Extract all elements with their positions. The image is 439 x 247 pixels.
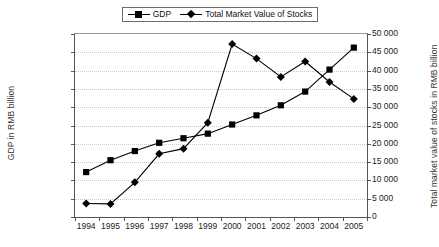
y-axis-left-title: GDP in RMB billion	[6, 63, 16, 183]
data-point-square	[326, 67, 332, 73]
x-axis-tick	[294, 217, 295, 221]
y-axis-right-tick	[367, 144, 371, 145]
y-axis-right-tick	[367, 71, 371, 72]
y-axis-right-tick	[367, 34, 371, 35]
y-axis-right-tick	[367, 126, 371, 127]
y-axis-right-tick-label: 50 000	[372, 29, 422, 38]
data-point-diamond	[253, 55, 261, 63]
data-point-square	[351, 45, 357, 51]
series-line-1	[86, 48, 354, 172]
y-axis-right-tick-label: 35 000	[372, 84, 422, 93]
y-axis-right-tick-label: 0	[372, 212, 422, 221]
legend-label-stocks: Total Market Value of Stocks	[204, 10, 312, 19]
data-point-square	[278, 102, 284, 108]
data-point-square	[156, 140, 162, 146]
data-point-square	[205, 131, 211, 137]
data-point-diamond	[350, 95, 358, 103]
data-point-square	[229, 121, 235, 127]
x-axis-tick	[75, 217, 76, 221]
x-axis-tick	[221, 217, 222, 221]
x-axis-tick	[148, 217, 149, 221]
y-axis-right-tick-label: 5 000	[372, 194, 422, 203]
y-axis-right-tick-label: 10 000	[372, 175, 422, 184]
y-axis-right-tick	[367, 52, 371, 53]
x-axis-tick	[367, 217, 368, 221]
data-point-diamond	[228, 40, 236, 48]
y-axis-right-tick-label: 40 000	[372, 66, 422, 75]
data-point-square	[83, 169, 89, 175]
series-line-2	[86, 44, 354, 204]
y-axis-right-tick-label: 25 000	[372, 121, 422, 130]
diamond-marker-icon	[180, 10, 202, 19]
data-point-square	[253, 112, 259, 118]
y-axis-right-tick-label: 15 000	[372, 157, 422, 166]
square-marker-icon	[128, 10, 150, 19]
data-point-square	[180, 135, 186, 141]
data-point-square	[302, 88, 308, 94]
series-layer	[74, 33, 366, 216]
y-axis-right-title: Total market value of stocks in RMB bill…	[429, 50, 439, 208]
y-axis-right-tick	[367, 162, 371, 163]
data-point-square	[132, 148, 138, 154]
y-axis-right-tick-label: 20 000	[372, 139, 422, 148]
legend-entry-stocks: Total Market Value of Stocks	[180, 10, 312, 19]
y-axis-right-tick	[367, 107, 371, 108]
chart-legend: GDP Total Market Value of Stocks	[122, 7, 318, 22]
y-axis-right-tick-label: 45 000	[372, 47, 422, 56]
y-axis-right-tick	[367, 180, 371, 181]
y-axis-right-tick	[367, 89, 371, 90]
y-axis-right-tick	[367, 199, 371, 200]
y-axis-right-tick-label: 30 000	[372, 102, 422, 111]
x-axis-tick-label: 2005	[339, 222, 369, 231]
legend-entry-gdp: GDP	[128, 10, 171, 19]
legend-label-gdp: GDP	[152, 10, 171, 19]
data-point-square	[107, 157, 113, 163]
data-point-diamond	[277, 73, 285, 81]
data-point-diamond	[82, 200, 90, 208]
